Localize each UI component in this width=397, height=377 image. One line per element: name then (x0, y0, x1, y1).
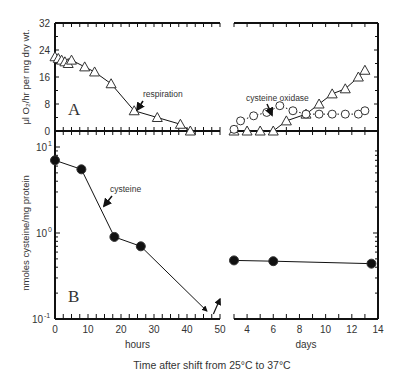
y-tick-label: 24 (39, 45, 51, 56)
x-tick-label: 8 (297, 324, 303, 335)
x-axis-label-hours: hours (125, 339, 150, 350)
x-tick-label: 12 (346, 324, 358, 335)
y-tick-label: 32 (39, 18, 51, 29)
panel-a-y-label: μl O₂/hr per mg dry wt. (20, 29, 31, 124)
figure: 0816243210110010-101020304050468101214ho… (0, 0, 397, 377)
filled-circle-marker (51, 156, 60, 165)
x-tick-label: 6 (270, 324, 276, 335)
open-circle-marker (237, 117, 245, 125)
triangle-marker (175, 119, 185, 128)
x-tick-label: 10 (82, 324, 94, 335)
open-circle-marker (230, 125, 238, 133)
triangle-marker (327, 89, 337, 98)
open-circle-marker (250, 112, 258, 120)
x-tick-label: 50 (214, 324, 226, 335)
axes (55, 23, 378, 319)
y-tick-label: 10 (32, 314, 44, 325)
open-circle-marker (289, 107, 297, 115)
x-tick-label: 20 (115, 324, 127, 335)
triangle-marker (152, 113, 162, 122)
cysteine-arrow-down (141, 246, 207, 311)
panel-b-y-label: nmoles cysteine/mg protein (20, 175, 31, 291)
triangle-marker (314, 99, 324, 108)
x-tick-label: 0 (52, 324, 58, 335)
open-circle-marker (328, 110, 336, 118)
triangle-marker (106, 79, 116, 88)
x-tick-label: 30 (148, 324, 160, 335)
filled-circle-marker (77, 165, 86, 174)
triangle-marker (281, 116, 291, 125)
y-tick-label: 16 (39, 72, 51, 83)
y-tick-label: 0 (44, 126, 50, 137)
open-circle-marker (341, 110, 349, 118)
x-tick-label: 40 (181, 324, 193, 335)
open-circle-marker (315, 110, 323, 118)
filled-circle-marker (230, 256, 239, 265)
data-series (50, 52, 376, 314)
annotation-arrow (104, 196, 112, 206)
annotation-arrow (137, 101, 143, 110)
y-tick-exponent: -1 (44, 312, 50, 319)
cysteine-line-hours (55, 160, 141, 246)
annotation-cysteine: cysteine (110, 184, 141, 194)
y-tick-label: 10 (36, 142, 48, 153)
y-tick-label: 8 (44, 99, 50, 110)
annotation-cysteine-oxidase: cysteine oxidase (246, 93, 309, 103)
cysteine-arrow-up (213, 299, 220, 314)
open-circle-marker (361, 107, 369, 115)
filled-circle-marker (367, 259, 376, 268)
filled-circle-marker (110, 232, 119, 241)
panel-a-label: A (68, 100, 81, 119)
x-tick-label: 10 (320, 324, 332, 335)
panel-b-label: B (68, 287, 79, 306)
y-tick-exponent: 1 (48, 140, 52, 147)
triangle-marker (80, 62, 90, 71)
open-circle-marker (302, 110, 310, 118)
cysteine-line-days (234, 260, 371, 263)
y-tick-exponent: 0 (48, 226, 52, 233)
y-tick-label: 10 (36, 228, 48, 239)
x-tick-label: 14 (372, 324, 384, 335)
x-axis-label-days: days (295, 339, 316, 350)
triangle-marker (360, 65, 370, 74)
annotation-respiration: respiration (143, 89, 183, 99)
x-tick-label: 4 (244, 324, 250, 335)
triangle-marker (90, 67, 100, 76)
filled-circle-marker (269, 257, 278, 266)
x-axis-title: Time after shift from 25°C to 37°C (133, 359, 291, 371)
